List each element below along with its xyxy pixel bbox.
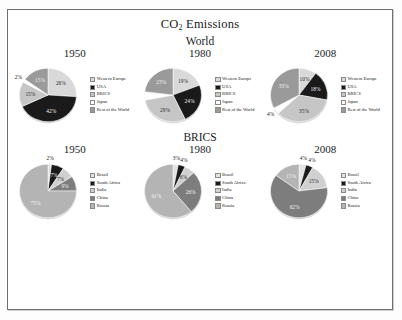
legend-label: India — [347, 188, 356, 193]
legend-swatch-icon — [90, 100, 95, 105]
legend-item: Japan — [215, 100, 262, 105]
pie-and-legend: 3%4%6%26%61%BrazilSouth AfricaIndiaChina… — [137, 156, 262, 226]
legend-label: Russia — [97, 204, 109, 209]
legend-label: India — [222, 188, 231, 193]
legend-swatch-icon — [90, 85, 95, 90]
pie-chart-cell: 200810%18%35%4%33%Western EuropeUSABRICS… — [263, 47, 388, 130]
pie-graphic: 4%4%15%62%15% — [263, 156, 339, 226]
legend-item: USA — [215, 85, 262, 90]
legend-swatch-icon — [341, 181, 346, 186]
legend-label: China — [222, 196, 233, 201]
pie-legend: BrazilSouth AfricaIndiaChinaRussia — [88, 171, 137, 211]
pie-slice-label: 26% — [56, 80, 66, 86]
legend-label: BRICS — [97, 92, 110, 97]
legend-swatch-icon — [341, 107, 346, 112]
legend-item: Brazil — [90, 173, 137, 178]
legend-swatch-icon — [341, 196, 346, 201]
legend-item: Brazil — [341, 173, 388, 178]
pie-and-legend: 4%4%15%62%15%BrazilSouth AfricaIndiaChin… — [263, 156, 388, 226]
legend-swatch-icon — [215, 85, 220, 90]
legend-swatch-icon — [341, 85, 346, 90]
legend-item: Brazil — [215, 173, 262, 178]
brics-chart-row: 19502%7%7%9%75%BrazilSouth AfricaIndiaCh… — [8, 143, 392, 226]
section-header-brics: BRICS — [8, 131, 392, 143]
pie-slice-label: 10% — [299, 76, 309, 82]
pie-chart-cell: 20084%4%15%62%15%BrazilSouth AfricaIndia… — [263, 143, 388, 226]
legend-label: Brazil — [347, 173, 358, 178]
pie-chart-year-label: 2008 — [314, 143, 336, 155]
legend-swatch-icon — [215, 196, 220, 201]
legend-swatch-icon — [215, 188, 220, 193]
pie-chart-year-label: 1980 — [189, 47, 211, 59]
legend-swatch-icon — [215, 100, 220, 105]
pie-chart-year-label: 1980 — [189, 143, 211, 155]
figure-title-subscript: 2 — [179, 23, 183, 32]
pie-slice-label: 19% — [178, 78, 188, 84]
pie-chart-cell: 19803%4%6%26%61%BrazilSouth AfricaIndiaC… — [137, 143, 262, 226]
pie-and-legend: 2%7%7%9%75%BrazilSouth AfricaIndiaChinaR… — [12, 156, 137, 226]
legend-swatch-icon — [90, 188, 95, 193]
pie-chart-cell: 198019%24%29%5%23%Western EuropeUSABRICS… — [137, 47, 262, 130]
legend-label: Western Europe — [347, 77, 376, 82]
legend-item: Rest of the World — [215, 107, 262, 112]
figure-page: CO2 Emissions World 195026%42%15%2%15%We… — [0, 0, 402, 320]
legend-item: BRICS — [341, 92, 388, 97]
legend-label: Japan — [347, 100, 357, 105]
legend-item: China — [90, 196, 137, 201]
pie-slice-label: 24% — [185, 98, 195, 104]
legend-label: Western Europe — [97, 77, 126, 82]
pie-slice-label: 35% — [299, 108, 309, 114]
pie-slice-label: 4% — [181, 157, 189, 163]
legend-item: Western Europe — [90, 77, 137, 82]
legend-swatch-icon — [341, 173, 346, 178]
pie-slice-label: 15% — [25, 91, 35, 97]
legend-swatch-icon — [215, 203, 220, 208]
legend-swatch-icon — [341, 188, 346, 193]
pie-slice-label: 15% — [35, 77, 45, 83]
legend-label: USA — [97, 85, 106, 90]
pie-chart-year-label: 1950 — [64, 47, 86, 59]
legend-swatch-icon — [341, 92, 346, 97]
pie-slice-label: 6% — [180, 174, 188, 180]
legend-item: South Africa — [341, 181, 388, 186]
legend-label: South Africa — [97, 181, 120, 186]
legend-item: BRICS — [215, 92, 262, 97]
world-chart-row: 195026%42%15%2%15%Western EuropeUSABRICS… — [8, 47, 392, 130]
legend-swatch-icon — [90, 181, 95, 186]
pie-legend: BrazilSouth AfricaIndiaChinaRussia — [339, 171, 388, 211]
pie-graphic: 2%7%7%9%75% — [12, 156, 88, 226]
legend-label: USA — [347, 85, 356, 90]
legend-label: Brazil — [222, 173, 233, 178]
pie-slice-label: 15% — [308, 178, 318, 184]
legend-label: Rest of the World — [347, 108, 379, 113]
legend-swatch-icon — [215, 173, 220, 178]
pie-slice-label: 4% — [267, 111, 275, 117]
pie-slice-label: 2% — [15, 74, 23, 80]
legend-label: China — [97, 196, 108, 201]
pie-legend: Western EuropeUSABRICSJapanRest of the W… — [339, 75, 388, 115]
legend-item: China — [215, 196, 262, 201]
pie-slice-label: 4% — [308, 157, 316, 163]
legend-item: USA — [90, 85, 137, 90]
legend-swatch-icon — [90, 173, 95, 178]
legend-label: Japan — [97, 100, 107, 105]
legend-item: Russia — [341, 203, 388, 208]
pie-slice-label: 75% — [31, 200, 41, 206]
legend-item: USA — [341, 85, 388, 90]
legend-item: BRICS — [90, 92, 137, 97]
pie-graphic: 10%18%35%4%33% — [263, 60, 339, 130]
legend-swatch-icon — [341, 203, 346, 208]
legend-swatch-icon — [341, 77, 346, 82]
pie-graphic: 3%4%6%26%61% — [137, 156, 213, 226]
pie-slice-label: 9% — [61, 183, 69, 189]
figure-title-main: CO — [161, 17, 179, 31]
legend-swatch-icon — [215, 107, 220, 112]
legend-label: China — [347, 196, 358, 201]
pie-slice-label: 4% — [299, 156, 307, 161]
legend-label: BRICS — [222, 92, 235, 97]
pie-chart-cell: 195026%42%15%2%15%Western EuropeUSABRICS… — [12, 47, 137, 130]
pie-slice-label: 62% — [289, 204, 299, 210]
pie-graphic: 26%42%15%2%15% — [12, 60, 88, 130]
legend-swatch-icon — [90, 196, 95, 201]
pie-chart-year-label: 1950 — [64, 143, 86, 155]
